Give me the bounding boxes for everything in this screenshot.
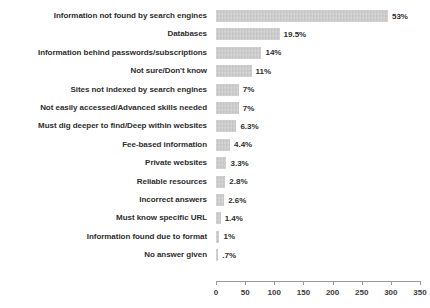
- axis-tick-label: 0: [201, 288, 231, 298]
- category-label: No answer given: [0, 250, 207, 260]
- axis-line: [216, 281, 420, 282]
- category-label: Private websites: [0, 158, 207, 168]
- bar: [216, 84, 239, 96]
- bar-value-label: 1%: [223, 232, 235, 242]
- axis-tick: [216, 281, 217, 285]
- x-axis: 050100150200250300350: [0, 0, 430, 40]
- bar: [216, 120, 236, 132]
- category-label: Information found due to format: [0, 232, 207, 242]
- bar: [216, 212, 221, 224]
- category-label: Not easily accessed/Advanced skills need…: [0, 103, 207, 113]
- category-label: Must know specific URL: [0, 213, 207, 223]
- bar-row: Must dig deeper to find/Deep within webs…: [0, 118, 430, 136]
- bar-value-label: 2.6%: [228, 196, 246, 206]
- bar-value-label: 7%: [243, 85, 255, 95]
- bar-chart: Information not found by search engines5…: [0, 0, 430, 308]
- axis-tick: [333, 281, 334, 285]
- category-label: Fee-based information: [0, 140, 207, 150]
- category-label: Information behind passwords/subscriptio…: [0, 48, 207, 58]
- bar-value-label: .7%: [222, 251, 236, 261]
- axis-tick-label: 250: [347, 288, 377, 298]
- axis-tick-label: 350: [405, 288, 430, 298]
- category-label: Sites not indexed by search engines: [0, 85, 207, 95]
- category-label: Must dig deeper to find/Deep within webs…: [0, 121, 207, 131]
- bar-row: Private websites3.3%: [0, 155, 430, 173]
- bar-value-label: 11%: [256, 67, 272, 77]
- bar: [216, 249, 218, 261]
- bar: [216, 102, 239, 114]
- bar-value-label: 7%: [243, 104, 255, 114]
- bar-row: Sites not indexed by search engines7%: [0, 82, 430, 100]
- bar-value-label: 6.3%: [240, 122, 258, 132]
- bar: [216, 65, 252, 77]
- bar-row: No answer given.7%: [0, 247, 430, 265]
- bar-row: Information found due to format1%: [0, 229, 430, 247]
- axis-tick-label: 100: [259, 288, 289, 298]
- axis-tick: [303, 281, 304, 285]
- bar-value-label: 3.3%: [230, 159, 248, 169]
- bar: [216, 176, 225, 188]
- bar-row: Not easily accessed/Advanced skills need…: [0, 100, 430, 118]
- bar-value-label: 4.4%: [234, 140, 252, 150]
- axis-tick-label: 200: [318, 288, 348, 298]
- bar-row: Reliable resources2.8%: [0, 174, 430, 192]
- axis-tick: [245, 281, 246, 285]
- category-label: Incorrect answers: [0, 195, 207, 205]
- bar: [216, 231, 219, 243]
- axis-tick-label: 150: [288, 288, 318, 298]
- category-label: Not sure/Don't know: [0, 66, 207, 76]
- bar-row: Incorrect answers2.6%: [0, 192, 430, 210]
- bar-value-label: 2.8%: [229, 177, 247, 187]
- axis-tick: [362, 281, 363, 285]
- axis-tick-label: 50: [230, 288, 260, 298]
- bar: [216, 47, 261, 59]
- axis-tick: [391, 281, 392, 285]
- bar-row: Fee-based information4.4%: [0, 137, 430, 155]
- bar: [216, 157, 226, 169]
- bar-value-label: 1.4%: [225, 214, 243, 224]
- bar: [216, 194, 224, 206]
- bar-row: Not sure/Don't know11%: [0, 63, 430, 81]
- bar-value-label: 14%: [265, 48, 281, 58]
- bar: [216, 139, 230, 151]
- category-label: Reliable resources: [0, 177, 207, 187]
- axis-tick-label: 300: [376, 288, 406, 298]
- axis-tick: [420, 281, 421, 285]
- bar-row: Must know specific URL1.4%: [0, 210, 430, 228]
- plot-area: Information not found by search engines5…: [0, 6, 430, 268]
- axis-tick: [274, 281, 275, 285]
- bar-row: Information behind passwords/subscriptio…: [0, 45, 430, 63]
